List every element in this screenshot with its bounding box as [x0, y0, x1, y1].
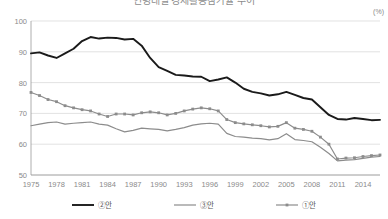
series-marker: [370, 154, 373, 157]
series-marker: [234, 121, 237, 124]
series-marker: [328, 143, 331, 146]
y-tick-label: 70: [19, 109, 27, 118]
series-line-1: [31, 37, 380, 120]
x-tick-label: 1990: [150, 180, 167, 189]
x-tick-label: 2005: [278, 180, 295, 189]
series-marker: [302, 128, 305, 131]
legend-label: ③안: [200, 199, 214, 210]
series-marker: [140, 111, 143, 114]
series-marker: [55, 100, 58, 103]
series-marker: [98, 113, 101, 116]
x-tick-label: 2002: [252, 180, 269, 189]
series-marker: [285, 121, 288, 124]
series-marker: [225, 118, 228, 121]
series-marker: [149, 110, 152, 113]
series-marker: [30, 91, 33, 94]
series-marker: [276, 125, 279, 128]
series-marker: [174, 112, 177, 115]
series-marker: [208, 107, 211, 110]
legend-swatch-icon: [276, 201, 298, 209]
series-marker: [72, 106, 75, 109]
series-marker: [379, 154, 382, 157]
legend-label: ①안: [302, 199, 316, 210]
series-marker: [47, 98, 50, 101]
legend-swatch-icon: [72, 201, 94, 209]
series-marker: [293, 127, 296, 130]
legend-item[interactable]: ③안: [174, 199, 214, 210]
series-marker: [311, 130, 314, 133]
x-tick-label: 1984: [99, 180, 116, 189]
x-tick-label: 1999: [227, 180, 244, 189]
x-tick-label: 2014: [355, 180, 372, 189]
series-marker: [259, 124, 262, 127]
series-line-2: [31, 122, 380, 161]
series-marker: [183, 110, 186, 113]
series-marker: [123, 113, 126, 116]
series-marker: [200, 106, 203, 109]
x-tick-label: 1978: [48, 180, 65, 189]
series-marker: [319, 136, 322, 139]
x-tick-label: 2011: [329, 180, 345, 189]
series-marker: [345, 157, 348, 160]
unit-label: (%): [373, 8, 384, 15]
series-marker: [115, 113, 118, 116]
series-marker: [336, 158, 339, 161]
y-tick-label: 100: [14, 17, 27, 26]
series-marker: [268, 126, 271, 129]
series-marker: [106, 115, 109, 118]
legend-item[interactable]: ①안: [276, 199, 316, 210]
y-tick-label: 80: [19, 78, 27, 87]
x-tick-label: 1996: [201, 180, 218, 189]
x-tick-label: 1993: [176, 180, 193, 189]
legend-label: ②안: [98, 199, 112, 210]
series-marker: [251, 123, 254, 126]
series-marker: [353, 156, 356, 159]
series-marker: [132, 114, 135, 117]
chart-title: 연령대별 경제활동참가율 추이: [0, 0, 388, 6]
series-marker: [242, 122, 245, 125]
series-line-3: [31, 92, 380, 159]
series-marker: [81, 108, 84, 111]
y-tick-label: 60: [19, 140, 27, 149]
series-marker: [157, 111, 160, 114]
series-marker: [89, 110, 92, 113]
series-marker: [217, 110, 220, 113]
legend-item[interactable]: ②안: [72, 199, 112, 210]
series-marker: [191, 108, 194, 111]
x-tick-label: 1981: [74, 180, 91, 189]
x-tick-label: 1987: [125, 180, 142, 189]
series-marker: [38, 94, 41, 97]
series-marker: [64, 104, 67, 107]
x-tick-label: 1975: [23, 180, 40, 189]
series-marker: [362, 155, 365, 158]
y-tick-label: 90: [19, 47, 27, 56]
x-tick-label: 2008: [304, 180, 321, 189]
chart-legend: ②안③안①안: [0, 199, 388, 210]
legend-swatch-icon: [174, 201, 196, 209]
series-marker: [166, 114, 169, 117]
chart-container: 연령대별 경제활동참가율 추이 (%) 5060708090100 197519…: [0, 0, 388, 219]
y-tick-label: 50: [19, 171, 27, 180]
